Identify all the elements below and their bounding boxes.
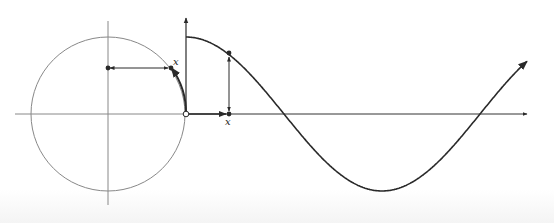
axis-point-label: x	[225, 116, 231, 127]
circle-point-label: x	[173, 56, 179, 67]
diagram-canvas: x x	[0, 0, 554, 223]
origin-open-point	[183, 111, 189, 117]
diagram-svg: x x	[0, 0, 554, 223]
graph-curve-point	[227, 51, 232, 56]
circle-center-projection-point	[106, 66, 111, 71]
